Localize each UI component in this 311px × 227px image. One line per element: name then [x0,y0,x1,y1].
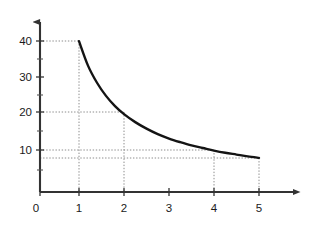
x-tick-label-1: 1 [76,202,82,214]
x-tick-label-5: 5 [256,202,262,214]
x-tick-label-3: 3 [166,202,172,214]
y-tick-label-20: 20 [19,106,32,118]
y-tick-label-40: 40 [19,35,32,47]
x-tick-label-0: 0 [33,202,39,214]
x-tick-label-4: 4 [211,202,218,214]
chart-figure: 40 30 20 10 0 1 2 3 4 5 [0,0,311,227]
y-tick-label-10: 10 [19,144,32,156]
chart-canvas: 40 30 20 10 0 1 2 3 4 5 [0,0,311,227]
y-tick-label-30: 30 [19,71,32,83]
x-tick-label-2: 2 [121,202,127,214]
